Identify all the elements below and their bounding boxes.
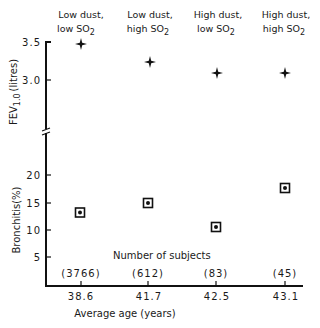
- subjects-title: Number of subjects: [113, 250, 211, 261]
- fev-axis-label: FEV1.0(litres): [8, 59, 22, 125]
- subjects-count-1: (3766): [61, 268, 100, 279]
- bronchitis-marker-1: [76, 208, 85, 217]
- subjects-count-4: (45): [273, 268, 298, 279]
- fev-marker-4: [279, 67, 291, 79]
- fev-tick-3-5: 3.5: [22, 37, 41, 48]
- bronchitis-tick-20: 20: [26, 170, 41, 181]
- group-header-2-line2: high SO2: [127, 23, 169, 37]
- x-tick-38-6: 38.6: [68, 291, 94, 302]
- group-header-4-line2: high SO2: [263, 23, 305, 37]
- x-tick-43-1: 43.1: [273, 291, 299, 302]
- bronchitis-tick-5: 5: [34, 252, 41, 263]
- bronchitis-markers: [76, 184, 290, 232]
- group-header-1-line1: Low dust,: [58, 9, 103, 20]
- group-headers: Low dust, low SO2 Low dust, high SO2 Hig…: [57, 9, 310, 37]
- group-header-3-line1: High dust,: [194, 9, 243, 20]
- subjects-count-3: (83): [204, 268, 229, 279]
- subjects-count-2: (612): [132, 268, 164, 279]
- fev-marker-3: [211, 67, 223, 79]
- fev-tick-3-0: 3.0: [22, 75, 41, 86]
- fev-marker-1: [75, 38, 87, 50]
- group-header-2-line1: Low dust,: [127, 9, 172, 20]
- bronchitis-tick-15: 15: [26, 198, 41, 209]
- fev-markers: [75, 38, 291, 79]
- fev-marker-2: [144, 56, 156, 68]
- bronchitis-marker-3: [212, 223, 221, 232]
- chart-figure: Low dust, low SO2 Low dust, high SO2 Hig…: [0, 0, 320, 328]
- y-axis: [42, 41, 51, 287]
- group-header-3-line2: low SO2: [197, 23, 235, 37]
- group-header-1-line2: low SO2: [57, 23, 95, 37]
- bronchitis-axis-label: Bronchitis(%): [11, 186, 22, 253]
- x-axis: [45, 281, 303, 286]
- bronchitis-tick-10: 10: [26, 225, 41, 236]
- bronchitis-marker-2: [144, 199, 153, 208]
- group-header-4-line1: High dust,: [262, 9, 311, 20]
- x-tick-42-5: 42.5: [204, 291, 230, 302]
- bronchitis-marker-4: [281, 184, 290, 193]
- x-axis-label: Average age (years): [74, 308, 175, 319]
- x-tick-41-7: 41.7: [136, 291, 162, 302]
